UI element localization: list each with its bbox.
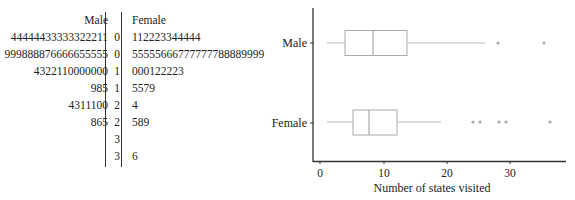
stem-row: 4322110000000 1 000122223 xyxy=(0,63,260,79)
outlier-point xyxy=(542,41,545,44)
female-leaves: 4 xyxy=(132,97,138,113)
female-leaves: 6 xyxy=(132,148,138,164)
stem-row: 985 1 5579 xyxy=(0,80,260,96)
male-leaves: 44444433333322211 xyxy=(11,29,108,45)
male-leaves: 4322110000000 xyxy=(34,63,108,79)
female-boxplot xyxy=(327,110,552,135)
stem-row: 865 2 589 xyxy=(0,114,260,130)
x-tick-label: 0 xyxy=(317,167,323,179)
male-leaves: 4311100 xyxy=(69,97,108,113)
x-tick-label: 20 xyxy=(441,167,453,179)
stem-row: 44444433333322211 0 112223344444 xyxy=(0,29,260,45)
x-tick-label: 10 xyxy=(378,167,390,179)
outlier-point xyxy=(548,120,551,123)
male-boxplot xyxy=(327,31,546,56)
outlier-point xyxy=(497,120,500,123)
stem-header-row: Male Female xyxy=(0,12,260,28)
female-label: Female xyxy=(272,116,307,130)
female-leaves: 5579 xyxy=(132,80,155,96)
stem-row: 4311100 2 4 xyxy=(0,97,260,113)
female-leaves: 55555666777777788889999 xyxy=(132,46,264,62)
outlier-point xyxy=(496,41,499,44)
male-label: Male xyxy=(282,36,307,50)
box-plot: Male Female 0 10 20 30 Number of states … xyxy=(260,0,575,200)
female-leaves: 000122223 xyxy=(132,63,184,79)
stem-row: 3 xyxy=(0,131,260,147)
outlier-point xyxy=(504,120,507,123)
x-tick-label: 30 xyxy=(504,167,516,179)
female-leaves: 589 xyxy=(132,114,149,130)
stem-and-leaf-plot: Male Female 44444433333322211 0 11222334… xyxy=(0,0,260,200)
stem-row: 3 6 xyxy=(0,148,260,164)
left-divider xyxy=(105,12,106,167)
female-leaves: 112223344444 xyxy=(132,29,201,45)
outlier-point xyxy=(478,120,481,123)
stem-row: 999888876666655555 0 5555566677777778888… xyxy=(0,46,260,62)
x-axis-title: Number of states visited xyxy=(374,181,491,195)
outlier-point xyxy=(471,120,474,123)
right-divider xyxy=(121,12,122,167)
male-leaves: 999888876666655555 xyxy=(5,46,109,62)
female-header: Female xyxy=(132,12,166,28)
